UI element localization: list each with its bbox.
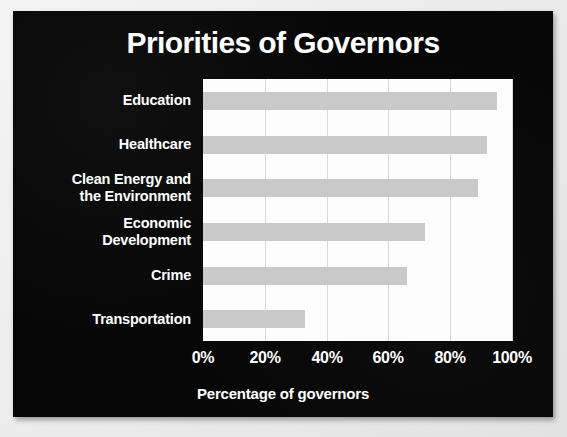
bars xyxy=(203,79,512,341)
category-label-line: Healthcare xyxy=(13,136,191,153)
category-label: Crime xyxy=(13,267,191,284)
category-label: Healthcare xyxy=(13,136,191,153)
x-tick-label: 80% xyxy=(434,349,465,367)
category-label: Transportation xyxy=(13,311,191,328)
x-tick-label: 100% xyxy=(492,349,532,367)
gridline xyxy=(512,79,513,341)
category-label-line: Transportation xyxy=(13,311,191,328)
category-label-line: the Environment xyxy=(13,188,191,205)
x-tick-label: 60% xyxy=(372,349,403,367)
bar xyxy=(203,92,497,110)
category-label: EconomicDevelopment xyxy=(13,215,191,249)
bar xyxy=(203,136,487,154)
plot-area xyxy=(203,79,512,341)
bar xyxy=(203,310,305,328)
chart-screenshot: Priorities of Governors EducationHealthc… xyxy=(0,0,567,437)
category-label-line: Crime xyxy=(13,267,191,284)
category-label: Clean Energy andthe Environment xyxy=(13,171,191,205)
x-axis-tick-labels: 0%20%40%60%80%100% xyxy=(203,349,512,373)
bar xyxy=(203,267,407,285)
x-tick-label: 0% xyxy=(192,349,215,367)
bar xyxy=(203,179,478,197)
category-axis-labels: EducationHealthcareClean Energy andthe E… xyxy=(13,79,197,341)
category-label-line: Education xyxy=(13,92,191,109)
chart-panel: Priorities of Governors EducationHealthc… xyxy=(13,11,553,417)
category-label: Education xyxy=(13,92,191,109)
category-label-line: Development xyxy=(13,232,191,249)
bar xyxy=(203,223,425,241)
category-label-line: Economic xyxy=(13,215,191,232)
x-tick-label: 20% xyxy=(249,349,280,367)
category-label-line: Clean Energy and xyxy=(13,171,191,188)
x-tick-label: 40% xyxy=(311,349,342,367)
x-axis-title: Percentage of governors xyxy=(13,385,553,402)
chart-title: Priorities of Governors xyxy=(13,26,553,60)
